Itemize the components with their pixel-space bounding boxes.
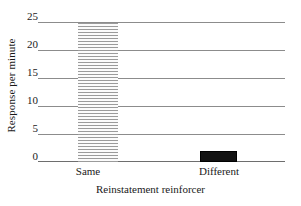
y-tick-label-5: 5 bbox=[20, 123, 38, 134]
x-axis-title: Reinstatement reinforcer bbox=[0, 183, 301, 196]
gridline-25 bbox=[38, 22, 285, 23]
x-category-label-same: Same bbox=[58, 165, 118, 178]
gridline-5 bbox=[38, 134, 285, 135]
gridline-10 bbox=[38, 106, 285, 107]
y-tick-label-15: 15 bbox=[20, 67, 38, 78]
x-axis-baseline bbox=[38, 161, 285, 162]
gridline-20 bbox=[38, 50, 285, 51]
y-tick-label-0: 0 bbox=[20, 151, 38, 162]
y-axis-tick-labels: 25 20 15 10 5 0 bbox=[20, 0, 38, 206]
bar-same bbox=[78, 23, 118, 162]
gridline-15 bbox=[38, 78, 285, 79]
x-category-label-different: Different bbox=[188, 165, 250, 178]
y-axis-title: Response per minute bbox=[0, 0, 22, 170]
bar-different bbox=[200, 151, 237, 162]
y-tick-label-25: 25 bbox=[20, 11, 38, 22]
plot-area bbox=[38, 22, 285, 162]
bar-chart-figure: Response per minute 25 20 15 10 5 0 Same… bbox=[0, 0, 301, 206]
y-tick-label-10: 10 bbox=[20, 95, 38, 106]
y-axis-title-text: Response per minute bbox=[6, 38, 17, 132]
y-tick-label-20: 20 bbox=[20, 39, 38, 50]
